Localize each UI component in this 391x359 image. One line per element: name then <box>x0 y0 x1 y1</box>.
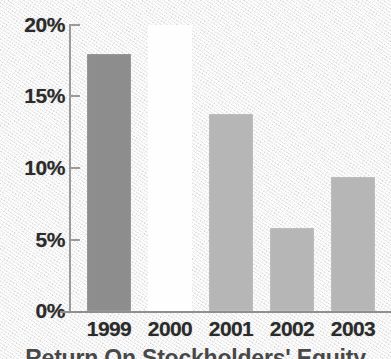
x-axis-tick-label-2003: 2003 <box>322 317 384 341</box>
y-axis-tick-label-5: 5% <box>3 228 65 252</box>
bar-2002 <box>270 228 314 311</box>
y-axis-tick-label-15: 15% <box>3 84 65 108</box>
chart-caption: Return On Stockholders' Equity <box>0 347 391 359</box>
plot-area <box>87 25 391 311</box>
bar-1999 <box>87 54 131 311</box>
y-axis-tick-label-20: 20% <box>3 13 65 37</box>
x-axis-tick-label-2001: 2001 <box>200 317 262 341</box>
y-axis-tick-mark-20 <box>69 24 80 26</box>
bar-chart: 20% 15% 10% 5% 0% 1999 2000 2001 2002 20… <box>0 0 391 359</box>
y-axis-tick-label-10: 10% <box>3 156 65 180</box>
y-axis-tick-mark-10 <box>69 167 80 169</box>
bar-2003 <box>331 177 375 311</box>
y-axis-tick-label-0: 0% <box>3 299 65 323</box>
x-axis-tick-label-2002: 2002 <box>261 317 323 341</box>
bar-2001 <box>209 114 253 311</box>
bar-2000 <box>148 25 192 311</box>
x-axis-tick-label-1999: 1999 <box>78 317 140 341</box>
y-axis-tick-mark-15 <box>69 95 80 97</box>
x-axis-tick-label-2000: 2000 <box>139 317 201 341</box>
y-axis-tick-mark-5 <box>69 239 80 241</box>
x-axis-line <box>60 311 391 313</box>
